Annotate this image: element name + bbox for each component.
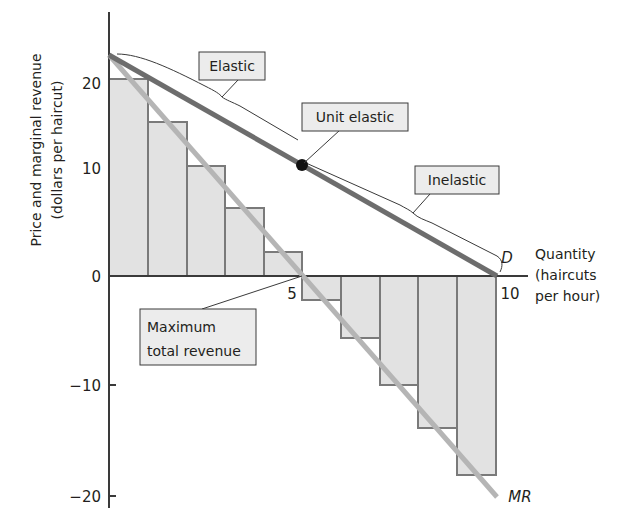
y-tick-label-m20: −20 xyxy=(69,488,101,506)
x-axis-title-line1: Quantity xyxy=(535,246,596,262)
inelastic-label: Inelastic xyxy=(428,172,486,188)
unit-elastic-label: Unit elastic xyxy=(316,109,394,125)
max-revenue-label-line1: Maximum xyxy=(147,319,216,335)
bar-2 xyxy=(148,122,187,276)
y-tick-label-10: 10 xyxy=(82,160,101,178)
bar-10 xyxy=(457,276,496,475)
x-tick-label-5: 5 xyxy=(287,285,297,303)
elastic-label: Elastic xyxy=(209,58,255,74)
bar-9 xyxy=(418,276,457,428)
max-revenue-label-line2: total revenue xyxy=(147,343,241,359)
x-axis-title-line2: (haircuts xyxy=(535,267,597,283)
y-axis-title-line2: (dollars per haircut) xyxy=(49,81,65,220)
inelastic-leader xyxy=(413,194,430,213)
demand-label: D xyxy=(501,249,513,267)
chart-canvas: Elastic Unit elastic Inelastic Maximum t… xyxy=(0,0,627,526)
y-tick-label-0: 0 xyxy=(91,268,101,286)
x-axis-title-line3: per hour) xyxy=(535,288,600,304)
mr-label: MR xyxy=(508,488,531,506)
y-tick-label-20: 20 xyxy=(82,75,101,93)
y-tick-label-m10: −10 xyxy=(69,377,101,395)
unit-elastic-leader xyxy=(304,130,340,163)
bar-4 xyxy=(225,208,264,276)
elastic-leader xyxy=(222,80,238,97)
bar-1 xyxy=(109,79,148,276)
y-axis-title-line1: Price and marginal revenue xyxy=(28,53,44,246)
x-tick-label-10: 10 xyxy=(500,285,519,303)
